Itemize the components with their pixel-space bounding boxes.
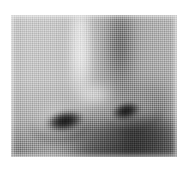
vignette-layer <box>11 15 177 157</box>
plate-edge-fade <box>11 15 177 157</box>
nose-bridge-highlight <box>63 15 99 125</box>
alar-crease-left <box>26 98 93 147</box>
scan-banding-layer <box>11 15 177 157</box>
vertical-shading-layer <box>11 15 177 157</box>
ala-left <box>31 97 89 137</box>
ala-right <box>111 87 165 127</box>
alar-crease-right <box>101 87 166 138</box>
nostril-right <box>107 97 145 125</box>
nostril-left <box>41 105 89 137</box>
nasolabial-fold-shadow <box>123 77 167 157</box>
subnasal-shadow <box>49 123 177 157</box>
page-root <box>0 0 188 173</box>
nose-photograph <box>11 15 177 157</box>
philtrum-highlight <box>21 137 93 157</box>
halftone-dither-layer <box>11 15 177 157</box>
nose-tip-highlight <box>69 77 121 113</box>
nose-bridge-specular-highlight <box>73 17 87 95</box>
skin-base-layer <box>11 15 177 157</box>
nose-bridge-shadow <box>103 15 137 113</box>
